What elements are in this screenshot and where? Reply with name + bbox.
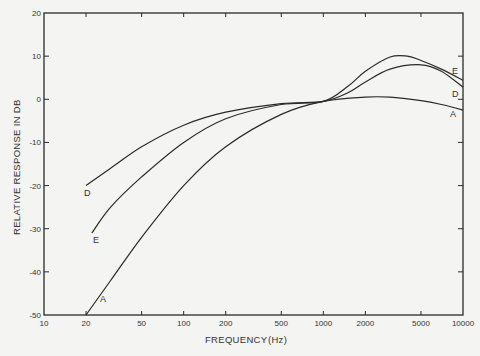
curve-label-a-left: A bbox=[100, 294, 106, 304]
x-tick-label: 1000 bbox=[314, 319, 332, 328]
curves bbox=[86, 55, 463, 315]
curve-label-d-right: D bbox=[452, 89, 459, 99]
x-tick-label: 200 bbox=[219, 319, 233, 328]
y-tick-label: -20 bbox=[29, 182, 41, 191]
curve-label-e-left: E bbox=[93, 235, 99, 245]
curve-label-d-left: D bbox=[84, 188, 91, 198]
y-axis-title: RELATIVE RESPONSE IN DB bbox=[11, 99, 22, 235]
x-tick-label: 10000 bbox=[452, 319, 475, 328]
y-tick-label: -30 bbox=[29, 225, 41, 234]
y-tick-label: -40 bbox=[29, 268, 41, 277]
y-tick-label: -10 bbox=[29, 138, 41, 147]
frequency-response-chart: 10205010020050010002000500010000 20100-1… bbox=[0, 0, 480, 356]
plot-frame bbox=[44, 13, 463, 315]
curve-d bbox=[86, 65, 463, 186]
curve-e bbox=[92, 55, 463, 233]
x-tick-label: 50 bbox=[137, 319, 146, 328]
curve-label-a-right: A bbox=[450, 109, 456, 119]
y-tick-label: 0 bbox=[37, 95, 42, 104]
curve-a bbox=[86, 97, 463, 315]
x-tick-label: 2000 bbox=[356, 319, 374, 328]
x-tick-label: 10 bbox=[40, 319, 49, 328]
x-tick-label: 500 bbox=[275, 319, 289, 328]
x-tick-label: 5000 bbox=[412, 319, 430, 328]
y-tick-label: 20 bbox=[32, 9, 41, 18]
x-axis-ticks: 10205010020050010002000500010000 bbox=[40, 13, 475, 328]
y-tick-label: -50 bbox=[29, 311, 41, 320]
x-tick-label: 20 bbox=[82, 319, 91, 328]
x-axis-unit: (Hz) bbox=[268, 334, 287, 345]
x-axis-title: FREQUENCY bbox=[205, 334, 268, 345]
y-tick-label: 10 bbox=[32, 52, 41, 61]
curve-label-e-right: E bbox=[452, 66, 458, 76]
x-tick-label: 100 bbox=[177, 319, 191, 328]
